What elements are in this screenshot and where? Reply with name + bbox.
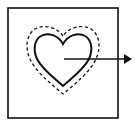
square-frame — [8, 8, 118, 118]
heart-outline — [35, 34, 92, 86]
diagram-canvas — [0, 0, 138, 125]
